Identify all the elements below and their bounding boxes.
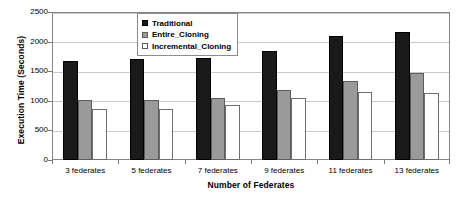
bar bbox=[63, 61, 78, 160]
bar bbox=[329, 36, 344, 160]
legend-swatch-icon bbox=[142, 43, 148, 49]
bar bbox=[395, 32, 410, 160]
x-axis-tick-label: 11 federates bbox=[317, 166, 383, 176]
y-axis-tick-label: 500 bbox=[18, 126, 48, 134]
bar-group bbox=[384, 12, 450, 160]
y-axis-tick-labels: 05001000150020002500 bbox=[18, 0, 48, 203]
bar bbox=[262, 51, 277, 160]
y-axis-tick-mark bbox=[48, 42, 52, 43]
bar bbox=[196, 58, 211, 160]
bar bbox=[211, 98, 226, 160]
y-axis-tick-mark bbox=[48, 101, 52, 102]
y-axis-tick-mark bbox=[48, 71, 52, 72]
x-axis-tick-mark bbox=[384, 160, 385, 164]
bar-group bbox=[52, 12, 118, 160]
x-axis-tick-mark bbox=[185, 160, 186, 164]
legend-item-label: Incremental_Cloning bbox=[152, 42, 231, 51]
x-axis-tick-mark bbox=[449, 160, 450, 164]
y-axis-tick-mark bbox=[48, 160, 52, 161]
x-axis-title: Number of Federates bbox=[52, 180, 450, 190]
bar bbox=[410, 73, 425, 160]
bar bbox=[78, 100, 93, 160]
bar bbox=[358, 92, 373, 160]
x-axis-tick-mark bbox=[52, 160, 53, 164]
bar bbox=[159, 109, 174, 160]
x-axis-tick-label: 13 federates bbox=[384, 166, 450, 176]
bar bbox=[144, 100, 159, 160]
bar bbox=[291, 98, 306, 160]
bar bbox=[277, 90, 292, 160]
x-axis-tick-label: 7 federates bbox=[185, 166, 251, 176]
legend-item: Traditional bbox=[142, 18, 231, 29]
x-axis-tick-mark bbox=[118, 160, 119, 164]
bar bbox=[225, 105, 240, 160]
y-axis-tick-label: 2000 bbox=[18, 38, 48, 46]
bar bbox=[130, 59, 145, 160]
x-axis-tick-labels: 3 federates5 federates7 federates9 feder… bbox=[52, 166, 450, 178]
legend-item-label: Entire_Cloning bbox=[152, 30, 209, 39]
legend-swatch-icon bbox=[142, 32, 148, 38]
bar-group bbox=[251, 12, 317, 160]
bar-chart: Execution Time (Seconds) 050010001500200… bbox=[0, 0, 463, 203]
x-axis-tick-label: 5 federates bbox=[118, 166, 184, 176]
y-axis-tick-label: 2500 bbox=[18, 8, 48, 16]
bar bbox=[343, 81, 358, 160]
legend-item: Entire_Cloning bbox=[142, 29, 231, 40]
x-axis-tick-mark bbox=[317, 160, 318, 164]
legend-swatch-icon bbox=[142, 20, 148, 26]
y-axis-tick-label: 1000 bbox=[18, 97, 48, 105]
bar-group bbox=[317, 12, 383, 160]
y-axis-tick-label: 1500 bbox=[18, 67, 48, 75]
y-axis-tick-mark bbox=[48, 12, 52, 13]
x-axis-tick-label: 3 federates bbox=[52, 166, 118, 176]
legend-item: Incremental_Cloning bbox=[142, 41, 231, 52]
chart-legend: TraditionalEntire_CloningIncremental_Clo… bbox=[137, 13, 238, 56]
y-axis-tick-label: 0 bbox=[18, 156, 48, 164]
bar bbox=[92, 109, 107, 160]
x-axis-tick-mark bbox=[251, 160, 252, 164]
bar-groups-layer bbox=[52, 12, 450, 160]
legend-item-label: Traditional bbox=[152, 19, 192, 28]
x-axis-tick-label: 9 federates bbox=[251, 166, 317, 176]
y-axis-tick-mark bbox=[48, 130, 52, 131]
bar bbox=[424, 93, 439, 160]
